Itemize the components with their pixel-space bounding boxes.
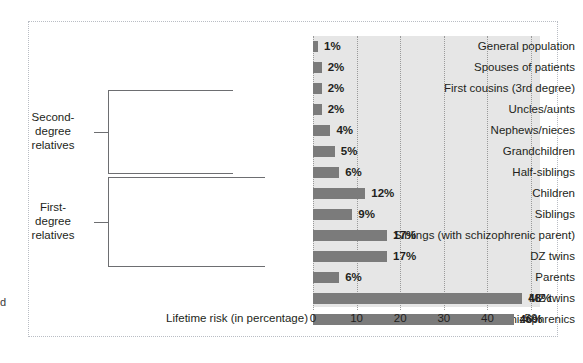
bar-row: Parents6% [0, 267, 583, 288]
x-tick-label: 20 [385, 307, 415, 329]
group-label-line: Second- [16, 110, 90, 124]
x-axis-title: Lifetime risk (in percentage) [166, 307, 308, 329]
bar [313, 62, 322, 73]
bar-chart: General population1%Spouses of patients2… [0, 0, 583, 363]
bar-value-label: 6% [345, 267, 362, 288]
bar [313, 125, 330, 136]
x-tick-label: 40 [472, 307, 502, 329]
bar-value-label: 2% [328, 78, 345, 99]
bar-row: Spouses of patients2% [0, 57, 583, 78]
bar-value-label: 4% [336, 120, 353, 141]
bar [313, 230, 387, 241]
x-tick-label: 30 [429, 307, 459, 329]
group-label-line: degree [16, 214, 90, 228]
x-tick-label: 0 [298, 307, 328, 329]
bar-row: MZ twins48% [0, 288, 583, 309]
bar [313, 293, 522, 304]
bar-value-label: 17% [393, 225, 416, 246]
bar-row: First cousins (3rd degree)2% [0, 78, 583, 99]
bar [313, 209, 352, 220]
bar [313, 251, 387, 262]
group-bracket-stem [94, 132, 108, 133]
bar-category-label: General population [275, 36, 583, 57]
x-axis: Lifetime risk (in percentage) 0102030405… [0, 307, 583, 329]
bar [313, 188, 365, 199]
bar-row: DZ twins17% [0, 246, 583, 267]
bar-value-label: 9% [358, 204, 375, 225]
group-label-line: relatives [16, 228, 90, 242]
x-tick-label: 10 [342, 307, 372, 329]
bar-row: General population1% [0, 36, 583, 57]
bar-value-label: 12% [371, 183, 394, 204]
bar [313, 104, 322, 115]
bar-value-label: 5% [341, 141, 358, 162]
bar-value-label: 6% [345, 162, 362, 183]
group-label-line: relatives [16, 138, 90, 152]
group-label: First-degreerelatives [16, 200, 90, 242]
bar-value-label: 48% [528, 288, 551, 309]
group-bracket [108, 90, 233, 174]
bar [313, 83, 322, 94]
group-label-line: degree [16, 124, 90, 138]
bar-value-label: 1% [324, 36, 341, 57]
bar [313, 41, 318, 52]
bar-value-label: 2% [328, 99, 345, 120]
group-label: Second-degreerelatives [16, 110, 90, 152]
bar-row: Half-siblings6% [0, 162, 583, 183]
bar [313, 146, 335, 157]
group-bracket [108, 177, 265, 267]
bar-value-label: 17% [393, 246, 416, 267]
x-tick-label: 50 [516, 307, 546, 329]
group-label-line: First- [16, 200, 90, 214]
bar-value-label: 2% [328, 57, 345, 78]
bar [313, 272, 339, 283]
bar [313, 167, 339, 178]
group-bracket-stem [94, 222, 108, 223]
